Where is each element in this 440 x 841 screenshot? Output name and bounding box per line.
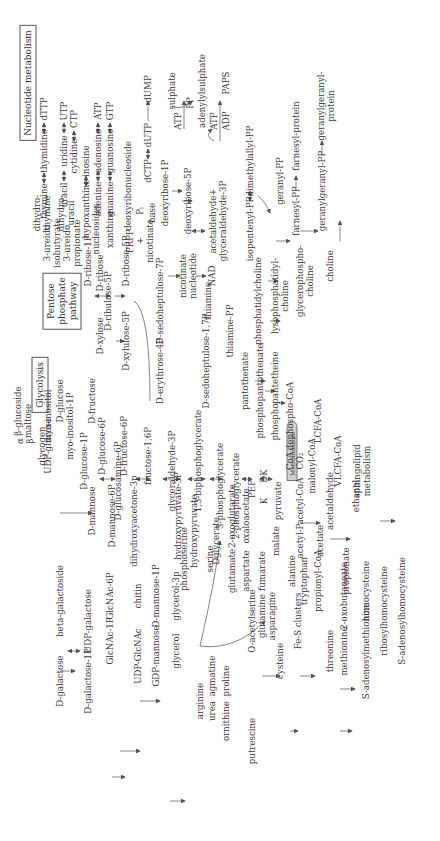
node-lysophosphatidylcholine: lysophosphatidyl- choline [270, 258, 290, 334]
node-propionyl-CoA: propionyl-CoA [313, 550, 323, 612]
node-maltose: maltose [23, 404, 33, 438]
node-ATP: ATP [93, 102, 103, 119]
node-nicotinate-nucleotide: nicotinate nucleotide [178, 253, 198, 299]
node-acetaldehyde-glyceraldehyde-3P: acetaldehyde+ glyceraldehyde-3P [208, 181, 228, 262]
node-aspartate: aspartate [241, 550, 251, 591]
node-beta-glucoside: β-glucoside [13, 386, 23, 435]
node-malonyl-CoA: malonyl-CoA [307, 438, 317, 493]
node-D-glucose-6P: D-glucose-6P [97, 417, 107, 474]
node-D-xylulose-5P: D-xylulose-5P [121, 311, 131, 371]
node-D-glucose: D-glucose [55, 379, 65, 422]
node-acetyl-P: acetyl-P [295, 524, 305, 559]
node-urea: urea [207, 701, 217, 721]
node-adenylylsulphate: adenylylsulphate [197, 54, 207, 128]
node-D-galactose-1P: D-galactose-1P [83, 648, 93, 714]
node-K: K [259, 498, 269, 504]
node-D-xylose: D-xylose [95, 317, 105, 354]
node-deoxyribonucleoside: deoxyribonucleoside [123, 141, 133, 231]
node-fumarate: fumarate [257, 551, 267, 591]
node-cysteine: cysteine [275, 643, 285, 679]
node-dCTP: dCTP [143, 159, 153, 183]
node-geranyl-PP: geranyl-PP [275, 157, 285, 204]
node-beta-galactoside: beta-galactoside [55, 565, 65, 637]
node-ribosylhomocysteine: ribosylhomocysteine [379, 566, 389, 656]
node-arginine: arginine [195, 683, 205, 719]
node-ethanol: ethanol [351, 480, 361, 513]
node-GDP-mannose: GDP-mannose [151, 626, 161, 687]
node-D-ribose-1P: D-ribose-1P [83, 235, 93, 286]
node-farnesyl-PP: farnesyl-PP [291, 186, 301, 236]
node-UTP: UTP [59, 102, 69, 121]
node-acetaldehyde: acetaldehyde [325, 472, 335, 530]
node-S-adenosylhomocysteine: S-adenosylhomocysteine [397, 557, 407, 665]
node-beta: β [25, 439, 35, 444]
node-thiamine-PP: thiamine-PP [225, 305, 235, 358]
node-isopentenyl-PP: isopentenyl-PP [245, 197, 255, 262]
node-phosphopantothenate: phosphopantothenate [255, 344, 265, 439]
node-dimethylallyl-PP: dimethylallyl-PP [245, 126, 255, 197]
node-glycerophosphocholine: glycerophospho- choline [295, 245, 315, 317]
node-hydroxypyruvate: hydroxypyruvate [189, 494, 199, 567]
node-D-mannose: D-mannose [87, 487, 97, 536]
node-Pi: Pᵢ [135, 207, 145, 215]
node-GlcNAc-6P: GlcNAc-6P [105, 572, 115, 619]
node-ADP: ADP [221, 112, 231, 131]
node-dihydrothymine: dihydro- thymine [32, 195, 52, 231]
node-alpha: α [15, 438, 25, 444]
node-tryptophan: tryptophan [299, 557, 309, 605]
node-acetyl-CoA: acetyl-CoA [295, 478, 305, 525]
node-pantothenate: pantothenate [240, 352, 250, 410]
node-malate: malate [271, 526, 281, 556]
node-proline: proline [221, 666, 231, 697]
node-GlcNAc-1P: GlcNAc-1P [105, 617, 115, 664]
node-UDP-glucose: UDP-glucose [43, 418, 53, 474]
node-serine: serine [205, 546, 215, 573]
node-chitin: chitin [133, 584, 143, 609]
node-D-ribose-5P: D-ribose-5P [121, 235, 131, 286]
node-D-sedoheptulose-7P: D-sedoheptulose-7P [155, 258, 165, 345]
node-fructose-1-6P: fructose-1,6P [143, 427, 153, 485]
node-3-phosphoglycerate: 3-phosphoglycerate [215, 443, 225, 529]
node-D-fructose: D-fructose [87, 378, 97, 424]
node-glutamine: glutamine [257, 594, 267, 638]
node-O-acetylserine: O-acetylserine [247, 589, 257, 652]
node-dUMP: dUMP [143, 75, 153, 102]
node-pyruvate: pyruvate [273, 482, 283, 521]
node-deoxyribose-5P: deoxyribose-5P [183, 168, 193, 235]
metabolic-pathway-diagram: Nucleotide metabolism Pentose phosphate … [0, 0, 440, 841]
node-dihydroxyacetone-3p: dihydroxyacetone-3p [129, 475, 139, 566]
node-phosphopantetheine: phosphopantetheine [270, 352, 280, 441]
node-farnesyl-protein: farnesyl-protein [291, 101, 301, 171]
node-D-erythrose-4P: D-erythrose-4P [155, 338, 165, 404]
node-xanthine: xanthine [105, 210, 115, 248]
node-adenosine: adenosine [93, 129, 103, 173]
node-D-sedoheptulose-1-7P: D-sedoheptulose-1,7P [201, 313, 211, 408]
node-guanosine: guanosine [105, 129, 115, 174]
node-geranylgeranyl-PP: geranylgeranyl-PP [317, 151, 327, 231]
node-D-mannose-6P: D-mannose-6P [107, 484, 117, 547]
node-CO2: CO₂ [295, 452, 305, 469]
node-ATP-adenylyl: ATP [209, 112, 219, 129]
node-agmatine: agmatine [207, 656, 217, 697]
node-glutamate: glutamate [227, 549, 237, 593]
node-hypoxanthine: hypoxanthine [81, 180, 91, 239]
node-CTP: CTP [69, 110, 79, 128]
node-thiamine: thiamine [203, 282, 213, 320]
node-DK: DK [259, 469, 269, 482]
node-D-galactose: D-galactose [55, 655, 65, 706]
node-D-mannose-1P: D-mannose-1P [151, 564, 161, 627]
node-ATP-sulphate: ATP [173, 112, 183, 129]
node-CoA: CoA [285, 452, 295, 470]
node-methionine: methionine [339, 626, 349, 675]
node-myo-inositol-1P: myo-inositol-1P [65, 392, 75, 459]
node-geranylgeranyl-protein: geranylgeranyl- protein [316, 72, 336, 141]
node-UDP-GlcNAc: UDP-GlcNAc [133, 628, 143, 683]
node-dihydrouracil: dihydro- uracil [56, 195, 76, 231]
node-oxaloacetate: oxaloacetate [241, 488, 251, 543]
node-glycerol: glycerol [171, 633, 181, 668]
node-dTTP: dTTP [39, 98, 49, 121]
node-deoxyribose-1P: deoxyribose-1P [160, 160, 170, 227]
node-dephospho-CoA: dephospho-CoA [285, 382, 295, 450]
node-inosine: inosine [81, 145, 91, 176]
node-dUTP: dUTP [143, 123, 153, 147]
